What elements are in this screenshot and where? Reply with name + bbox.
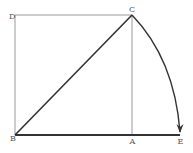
label-e: E <box>178 137 184 146</box>
label-c: C <box>129 5 135 14</box>
geometric-diagram: D C B A E <box>0 0 193 153</box>
label-b: B <box>10 134 16 143</box>
label-a: A <box>129 137 136 146</box>
label-d: D <box>9 12 15 21</box>
rotation-arc-ce <box>132 15 180 132</box>
diagonal-bc <box>15 15 132 135</box>
